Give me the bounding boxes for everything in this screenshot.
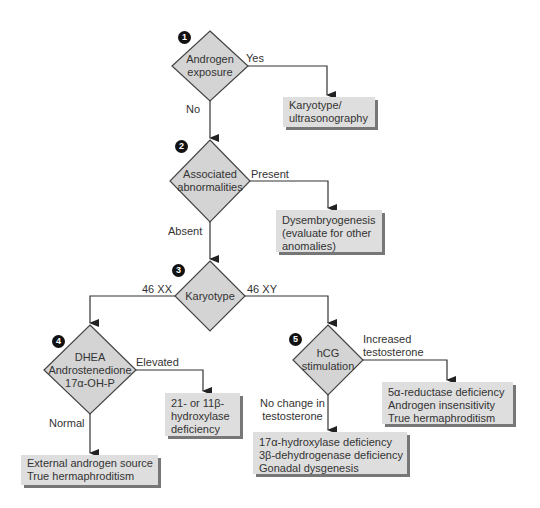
decision-associated-abnormalities: Associated abnormalities <box>177 168 242 194</box>
edge-label-absent: Absent <box>168 225 202 238</box>
outcome-hydroxylase-deficiency: 21- or 11β- hydroxylase deficiency <box>165 393 240 436</box>
edge-label-no: No <box>186 103 200 116</box>
edge-label-yes: Yes <box>246 52 264 65</box>
edge-label-elevated: Elevated <box>136 356 179 369</box>
decision-dhea: DHEA Androstenedione 17α-OH-P <box>48 351 131 390</box>
edge-label-present: Present <box>251 168 289 181</box>
edge-label-normal: Normal <box>49 417 84 430</box>
edge-label-no-change-testosterone: No change in testosterone <box>260 397 325 423</box>
outcome-karyotype-ultrasonography: Karyotype/ ultrasonography <box>283 97 375 127</box>
step-badge-1: 1 <box>178 31 191 44</box>
outcome-dysembryogenesis: Dysembryogenesis (evaluate for other ano… <box>276 210 382 252</box>
step-badge-4: 4 <box>52 335 65 348</box>
outcome-external-androgen: External androgen source True hermaphrod… <box>21 455 158 485</box>
step-badge-3: 3 <box>172 264 185 277</box>
decision-karyotype: Karyotype <box>185 290 235 303</box>
edge-label-46xx: 46 XX <box>142 283 172 296</box>
edge-label-increased-testosterone: Increased testosterone <box>363 333 424 359</box>
outcome-17a-hydroxylase: 17α-hydroxylase deficiency 3β-dehydrogen… <box>253 432 407 474</box>
step-badge-2: 2 <box>175 140 188 153</box>
step-badge-5: 5 <box>289 333 302 346</box>
edge-label-46xy: 46 XY <box>247 283 277 296</box>
outcome-5a-reductase: 5α-reductase deficiency Androgen insensi… <box>382 382 513 424</box>
decision-androgen-exposure: Androgen exposure <box>186 53 234 79</box>
decision-hcg-stimulation: hCG stimulation <box>302 347 355 373</box>
